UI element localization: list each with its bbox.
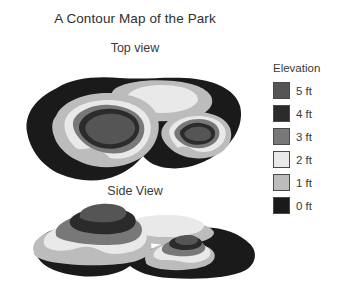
legend-item-4ft: 4 ft <box>273 102 349 125</box>
legend-item-1ft: 1 ft <box>273 171 349 194</box>
legend-item-3ft: 3 ft <box>273 125 349 148</box>
legend-label-5ft: 5 ft <box>296 85 312 97</box>
legend-title: Elevation <box>273 62 349 74</box>
legend-label-1ft: 1 ft <box>296 177 312 189</box>
legend-swatch-5ft <box>273 82 290 99</box>
top-view-panel <box>27 77 241 180</box>
side-left-core-5ft <box>80 204 127 222</box>
legend-swatch-0ft <box>273 197 290 214</box>
legend-label-2ft: 2 ft <box>296 154 312 166</box>
legend-label-4ft: 4 ft <box>296 108 312 120</box>
legend-swatch-3ft <box>273 128 290 145</box>
legend-label-0ft: 0 ft <box>296 200 312 212</box>
legend-item-2ft: 2 ft <box>273 148 349 171</box>
legend-item-5ft: 5 ft <box>273 79 349 102</box>
contour-map-figure: A Contour Map of the Park Top view Side … <box>0 0 351 289</box>
legend-item-0ft: 0 ft <box>273 194 349 217</box>
legend-label-3ft: 3 ft <box>296 131 312 143</box>
legend-swatch-4ft <box>273 105 290 122</box>
side-view-left-hill <box>33 204 151 265</box>
side-view-panel <box>33 204 255 279</box>
elevation-legend: Elevation 5 ft 4 ft 3 ft 2 ft 1 ft 0 ft <box>273 62 349 217</box>
legend-swatch-1ft <box>273 174 290 191</box>
legend-swatch-2ft <box>273 151 290 168</box>
